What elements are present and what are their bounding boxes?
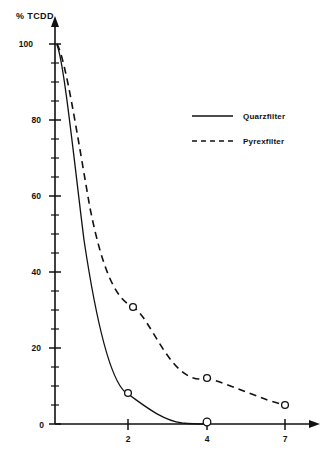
chart-canvas: % TCDD 100 80 60 40 20 0 2 4 7 Quarzfilt… — [0, 0, 328, 464]
x-axis-arrowhead — [309, 420, 320, 428]
y-tick-label-0: 0 — [39, 420, 44, 430]
chart-figure: % TCDD 100 80 60 40 20 0 2 4 7 Quarzfilt… — [0, 0, 328, 464]
series-line-pyrexfilter — [57, 44, 285, 405]
legend-label-pyrexfilter: Pyrexfilter — [243, 137, 284, 146]
y-axis-group — [51, 16, 59, 424]
y-axis-title: % TCDD — [16, 11, 54, 21]
data-point-pyrexfilter-7 — [282, 402, 289, 409]
x-tick-label-2: 2 — [126, 434, 131, 444]
data-point-quarzfilter-4 — [203, 418, 211, 426]
x-tick-label-7: 7 — [283, 434, 288, 444]
y-tick-label-60: 60 — [32, 191, 42, 201]
x-tick-label-4: 4 — [205, 434, 210, 444]
y-tick-label-20: 20 — [32, 343, 42, 353]
y-tick-label-80: 80 — [32, 115, 42, 125]
data-point-pyrexfilter-4 — [204, 375, 211, 382]
legend-label-quarzfilter: Quarzfilter — [243, 112, 285, 121]
series-markers-quarzfilter — [125, 390, 211, 426]
data-point-quarzfilter-2 — [125, 390, 132, 397]
legend: Quarzfilter Pyrexfilter — [192, 112, 285, 146]
series-line-quarzfilter — [57, 45, 207, 424]
y-tick-label-100: 100 — [19, 39, 33, 49]
data-point-pyrexfilter-2 — [130, 304, 137, 311]
y-tick-label-40: 40 — [32, 267, 42, 277]
series-markers-pyrexfilter — [130, 304, 289, 409]
